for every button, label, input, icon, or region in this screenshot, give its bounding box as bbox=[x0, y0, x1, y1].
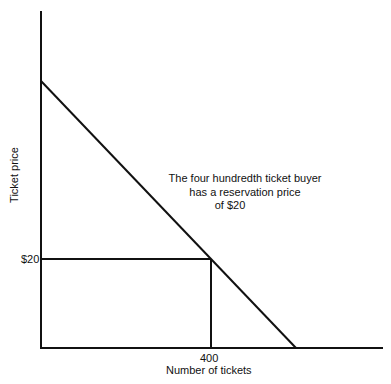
annotation: The four hundredth ticket buyer has a re… bbox=[160, 172, 330, 213]
annotation-line-1: The four hundredth ticket buyer bbox=[160, 172, 330, 186]
x-tick-400: 400 bbox=[200, 352, 218, 364]
annotation-line-2: has a reservation price bbox=[160, 186, 330, 200]
y-tick-20: $20 bbox=[21, 253, 39, 265]
demand-curve bbox=[41, 81, 296, 348]
y-axis-label: Ticket price bbox=[8, 147, 20, 203]
annotation-line-3: of $20 bbox=[160, 199, 330, 213]
x-axis-label: Number of tickets bbox=[166, 364, 252, 376]
